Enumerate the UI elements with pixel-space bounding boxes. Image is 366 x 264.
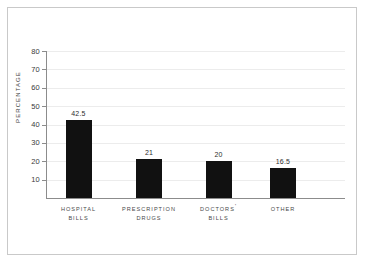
y-tick-mark (42, 69, 46, 70)
y-tick-label: 20 (18, 157, 40, 166)
y-tick-label: 10 (18, 175, 40, 184)
x-axis-category-label: OTHER (248, 205, 318, 214)
y-tick-label: 50 (18, 102, 40, 111)
bar[interactable] (270, 168, 296, 198)
bar[interactable] (136, 159, 162, 198)
x-axis-category-label: HOSPITALBILLS (44, 205, 114, 222)
gridline (46, 88, 345, 89)
bar[interactable] (66, 120, 92, 198)
gridline (46, 51, 345, 52)
x-axis-category-label: PRESCRIPTIONDRUGS (114, 205, 184, 222)
bar-value-label: 20 (196, 151, 242, 158)
y-tick-label: 80 (18, 47, 40, 56)
y-tick-mark (42, 125, 46, 126)
y-tick-mark (42, 161, 46, 162)
y-axis-line (46, 51, 47, 199)
gridline (46, 106, 345, 107)
y-tick-label: 70 (18, 65, 40, 74)
gridline (46, 69, 345, 70)
y-tick-mark (42, 106, 46, 107)
bar[interactable] (206, 161, 232, 198)
bar-value-label: 42.5 (56, 110, 102, 117)
y-tick-label: 40 (18, 120, 40, 129)
y-tick-label: 60 (18, 83, 40, 92)
y-tick-mark (42, 180, 46, 181)
plot-area (46, 51, 345, 198)
chart-figure: PERCENTAGE 807060504030201042.5HOSPITALB… (0, 0, 366, 264)
y-tick-mark (42, 88, 46, 89)
bar-value-label: 16.5 (260, 158, 306, 165)
x-axis-line (46, 198, 345, 199)
y-tick-mark (42, 51, 46, 52)
x-axis-category-label: DOCTORS'BILLS (184, 205, 254, 222)
bar-value-label: 21 (126, 149, 172, 156)
y-tick-mark (42, 143, 46, 144)
y-tick-label: 30 (18, 138, 40, 147)
